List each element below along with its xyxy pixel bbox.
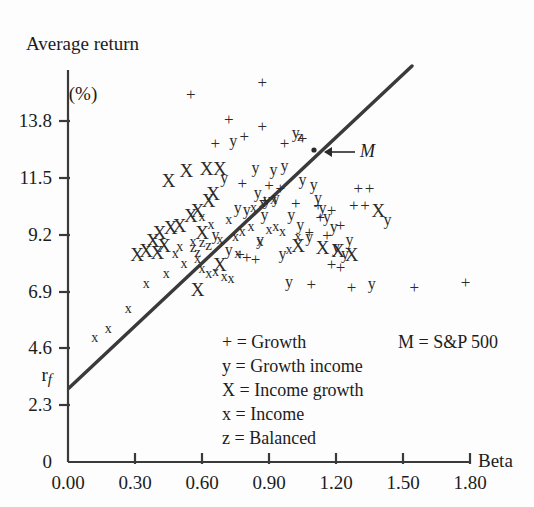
data-point-plus: + xyxy=(461,273,471,290)
data-point-income: x xyxy=(259,196,266,210)
data-point-income: x xyxy=(257,235,264,249)
data-point-plus: + xyxy=(258,73,268,90)
data-point-income-growth: X xyxy=(200,158,214,177)
legend-item-growth-income: y = Growth income xyxy=(222,356,363,377)
data-point-growth-income: y xyxy=(234,200,242,216)
data-point-growth-income: y xyxy=(287,207,295,223)
data-point-growth-income: y xyxy=(368,276,376,292)
data-point-income-growth: X xyxy=(345,245,359,264)
data-point-plus: + xyxy=(251,251,261,268)
data-point-plus: + xyxy=(224,110,234,127)
data-point-income: x xyxy=(212,265,219,279)
x-tick-label-0-30: 0.30 xyxy=(103,472,167,494)
x-tick-label-0-90: 0.90 xyxy=(237,472,301,494)
data-point-growth-income: y xyxy=(252,160,260,176)
data-point-income-growth: X xyxy=(316,238,330,257)
y-tick-label-4-6: 4.6 xyxy=(0,337,52,359)
data-point-income: x xyxy=(279,225,286,239)
y-tick-label-rf: rf xyxy=(0,364,52,388)
data-point-plus: + xyxy=(280,135,290,152)
data-point-income: x xyxy=(228,272,235,286)
legend-label-growth: Growth xyxy=(251,332,306,352)
legend-equals-4: = xyxy=(230,428,249,448)
y-tick-label-6-9: 6.9 xyxy=(0,281,52,303)
market-point-label: M xyxy=(360,141,375,162)
data-point-income: x xyxy=(248,220,255,234)
data-point-income: x xyxy=(176,240,183,254)
data-point-income-growth: X xyxy=(130,245,144,264)
data-point-balanced: z xyxy=(297,128,304,143)
data-point-plus: + xyxy=(186,85,196,102)
legend-item-income-growth: X = Income growth xyxy=(222,380,364,401)
data-point-growth-income: y xyxy=(299,172,307,188)
y-tick-label-11-5: 11.5 xyxy=(0,167,52,189)
data-point-income: x xyxy=(91,331,98,345)
data-point-income: x xyxy=(143,277,150,291)
x-tick-label-1-80: 1.80 xyxy=(438,472,502,494)
rf-subscript: f xyxy=(48,371,52,387)
legend-symbol-X: X xyxy=(222,380,235,400)
data-point-income: x xyxy=(199,210,206,224)
data-point-plus: + xyxy=(409,278,419,295)
data-point-income: x xyxy=(207,218,214,232)
market-point-arrow xyxy=(324,147,355,157)
data-point-income-growth: X xyxy=(180,161,194,180)
data-point-plus: + xyxy=(347,278,357,295)
data-point-plus: + xyxy=(354,179,364,196)
data-point-balanced: z xyxy=(205,237,212,252)
data-point-income-growth: X xyxy=(331,240,345,259)
data-point-income: x xyxy=(250,201,257,215)
x-tick-label-1-20: 1.20 xyxy=(304,472,368,494)
legend-label-income-growth: Income growth xyxy=(254,380,363,400)
legend-symbol-y: y xyxy=(222,356,231,376)
data-point-plus: + xyxy=(211,135,221,152)
x-tick-label-1-50: 1.50 xyxy=(371,472,435,494)
legend-symbol-x: x xyxy=(222,404,231,424)
data-point-plus: + xyxy=(365,179,375,196)
data-point-plus: + xyxy=(258,117,268,134)
y-tick-label-0: 0 xyxy=(0,451,52,473)
market-index-note: M = S&P 500 xyxy=(398,332,498,353)
data-point-income: x xyxy=(270,193,277,207)
legend-label-balanced: Balanced xyxy=(249,428,316,448)
data-point-income-growth: X xyxy=(213,158,227,177)
data-point-income: x xyxy=(216,233,223,247)
data-point-income: x xyxy=(105,322,112,336)
data-point-growth-income: y xyxy=(305,229,313,245)
legend-equals-0: = xyxy=(232,332,251,352)
data-point-income: x xyxy=(295,230,302,244)
data-point-plus: + xyxy=(360,197,370,214)
data-point-income: x xyxy=(181,257,188,271)
data-point-income: x xyxy=(234,247,241,261)
scatter-plot-figure: Average return (%) Beta 13.8 11.5 9.2 6.… xyxy=(0,0,534,507)
y-tick-label-9-2: 9.2 xyxy=(0,224,52,246)
data-point-income-growth: X xyxy=(372,201,386,220)
x-tick-label-0-60: 0.60 xyxy=(170,472,234,494)
data-point-income-growth: X xyxy=(191,280,205,299)
data-point-growth-income: y xyxy=(285,274,293,290)
data-point-income: x xyxy=(163,267,170,281)
data-point-growth-income: y xyxy=(330,219,338,235)
data-point-income-growth: X xyxy=(162,171,176,190)
data-point-income: x xyxy=(225,213,232,227)
legend-label-growth-income: Growth income xyxy=(250,356,362,376)
y-tick-label-13-8: 13.8 xyxy=(0,110,52,132)
data-point-plus: + xyxy=(237,174,247,191)
legend-symbol-z: z xyxy=(222,428,230,448)
y-tick-label-2-3: 2.3 xyxy=(0,394,52,416)
y-axis-title-line2: (%) xyxy=(8,81,158,106)
data-point-growth-income: y xyxy=(270,162,278,178)
legend-symbol-plus: + xyxy=(222,332,232,352)
y-axis-title: Average return (%) xyxy=(8,6,158,156)
market-point-dot xyxy=(311,147,316,152)
data-point-plus: + xyxy=(349,197,359,214)
data-point-income-growth: X xyxy=(206,183,220,202)
data-point-income-growth: X xyxy=(150,243,164,262)
legend-equals-2: = xyxy=(235,380,254,400)
data-point-income: x xyxy=(286,243,293,257)
legend-equals-1: = xyxy=(231,356,250,376)
x-tick-label-0-00: 0.00 xyxy=(36,472,100,494)
data-point-income: x xyxy=(125,302,132,316)
x-axis-title: Beta xyxy=(478,448,513,473)
data-point-growth-income: y xyxy=(281,158,289,174)
